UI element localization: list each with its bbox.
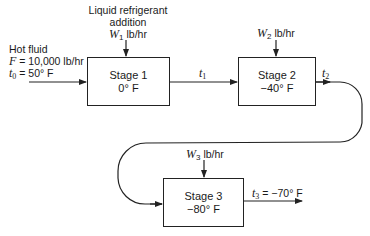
stage-1-box: Stage 1 0° F (87, 57, 170, 106)
refrigerant-label: Liquid refrigerant addition W1 lb/hr (78, 4, 178, 44)
t3-value: = −70° F (262, 187, 302, 199)
t2-label: t2 (322, 67, 329, 83)
w2-label: W2 lb/hr (257, 27, 295, 43)
flow-value: = 10,000 lb/hr (19, 55, 84, 67)
stage-1-temp: 0° F (118, 82, 138, 95)
stage-3-box: Stage 3 −80° F (163, 178, 244, 227)
feed-label: Hot fluid F = 10,000 lb/hr t0 = 50° F (9, 43, 84, 83)
t1-label: t1 (199, 67, 206, 83)
stage-2-temp: −40° F (261, 82, 294, 95)
stage-2-name: Stage 2 (258, 69, 296, 82)
stage-3-temp: −80° F (187, 203, 220, 216)
feed-title: Hot fluid (9, 43, 84, 55)
t3-label: t3 = −70° F (252, 187, 303, 203)
feed-temp: = 50° F (19, 67, 53, 79)
w3-label: W3 lb/hr (186, 148, 224, 164)
stage-2-box: Stage 2 −40° F (238, 57, 316, 106)
stage-3-name: Stage 3 (185, 190, 223, 203)
stage-1-name: Stage 1 (110, 69, 148, 82)
